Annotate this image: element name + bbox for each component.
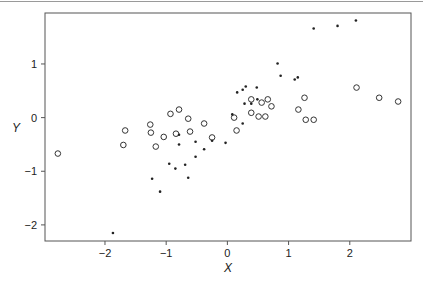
dot-point — [296, 76, 299, 79]
dot-point — [250, 102, 253, 105]
open-circle-point — [302, 95, 308, 101]
dot-point — [187, 176, 190, 179]
scatter-chart: −2−1012−2−101 X Y — [0, 0, 423, 287]
y-axis-label: Y — [12, 121, 21, 135]
dot-point — [112, 232, 115, 235]
open-circle-point — [269, 104, 275, 110]
dot-point — [194, 155, 197, 158]
open-circle-point — [263, 114, 269, 120]
open-circle-point — [256, 114, 262, 120]
dot-point — [178, 143, 181, 146]
dot-point — [293, 78, 296, 81]
open-circle-point — [153, 144, 159, 150]
open-circle-point — [168, 111, 174, 117]
plot-border — [45, 13, 411, 241]
open-circle-point — [161, 134, 167, 140]
dot-point — [194, 140, 197, 143]
dot-point — [178, 133, 181, 136]
dot-point — [312, 27, 315, 30]
x-tick-label: 2 — [347, 247, 353, 259]
dot-point — [211, 139, 214, 142]
open-circle-point — [121, 142, 127, 148]
dot-point — [203, 148, 206, 151]
open-circle-point — [248, 110, 254, 116]
dot-point — [279, 74, 282, 77]
dot-point — [174, 167, 177, 170]
open-circle-point — [185, 116, 191, 122]
x-tick-label: −2 — [99, 247, 112, 259]
dot-point — [256, 98, 259, 101]
dot-point — [243, 102, 246, 105]
open-circle-point — [395, 99, 401, 105]
open-circle-point — [201, 121, 207, 127]
dot-point — [336, 25, 339, 28]
dot-point — [224, 142, 227, 145]
open-circle-point — [147, 122, 153, 128]
y-tick-label: −1 — [24, 165, 37, 177]
dot-point — [255, 86, 258, 89]
open-circle-point — [173, 131, 179, 137]
y-tick-label: 0 — [31, 112, 37, 124]
open-circle-point — [311, 117, 317, 123]
open-circle-point — [176, 107, 182, 113]
data-points — [55, 19, 401, 234]
open-circle-point — [234, 128, 240, 134]
x-axis-label: X — [223, 261, 233, 275]
dot-point — [236, 91, 239, 94]
x-tick-label: −1 — [160, 247, 173, 259]
open-circle-point — [303, 117, 309, 123]
open-circle-point — [55, 151, 61, 157]
open-circle-point — [265, 97, 271, 103]
dot-point — [241, 88, 244, 91]
dot-point — [151, 177, 154, 180]
x-tick-label: 0 — [224, 247, 230, 259]
y-tick-label: 1 — [31, 58, 37, 70]
dot-point — [231, 113, 234, 116]
open-circle-point — [187, 129, 193, 135]
open-circle-point — [248, 97, 254, 103]
y-tick-label: −2 — [24, 219, 37, 231]
open-circle-point — [122, 128, 128, 134]
plot-frame — [45, 13, 411, 241]
dot-point — [244, 85, 247, 88]
dot-point — [355, 19, 358, 22]
dot-point — [184, 164, 187, 167]
axis-ticks: −2−1012−2−101 — [24, 58, 352, 259]
open-circle-point — [354, 85, 360, 91]
dot-point — [276, 62, 279, 65]
x-tick-label: 1 — [286, 247, 292, 259]
open-circle-point — [259, 100, 265, 106]
dot-point — [168, 162, 171, 165]
dot-point — [159, 190, 162, 193]
dot-point — [241, 122, 244, 125]
open-circle-point — [376, 95, 382, 101]
open-circle-point — [296, 107, 302, 113]
open-circle-point — [148, 130, 154, 136]
